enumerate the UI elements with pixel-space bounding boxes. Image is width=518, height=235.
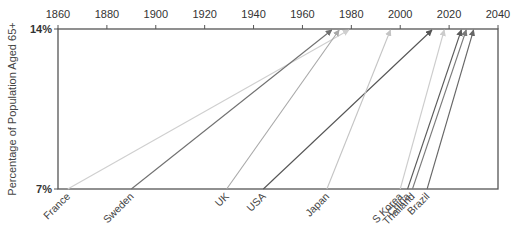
- x-axis-ticks: 1860188019001920194019601980200020202040: [46, 8, 510, 29]
- country-label: USA: [244, 190, 268, 214]
- x-tick-label: 1920: [192, 8, 216, 20]
- series-line-france: [68, 30, 349, 189]
- x-tick-label: 1960: [290, 8, 314, 20]
- country-label: Sweden: [100, 190, 135, 225]
- x-tick-label: 2040: [486, 8, 510, 20]
- country-label: Japan: [303, 190, 332, 219]
- x-tick-label: 1880: [95, 8, 119, 20]
- series-lines: [68, 30, 474, 189]
- series-line-sweden: [131, 30, 331, 189]
- x-tick-label: 2020: [437, 8, 461, 20]
- y-axis-top-label: 14%: [30, 23, 52, 35]
- y-axis-bottom-label: 7%: [36, 183, 52, 195]
- x-tick-label: 1940: [241, 8, 265, 20]
- country-labels: FranceSwedenUKUSAJapanS KoreaChinaThaila…: [41, 190, 432, 227]
- y-axis-title: Percentage of Population Aged 65+: [6, 22, 18, 195]
- series-line-japan: [327, 30, 391, 189]
- plot-frame: [54, 29, 498, 189]
- x-tick-label: 1900: [144, 8, 168, 20]
- aging-speed-chart: 1860188019001920194019601980200020202040…: [0, 0, 518, 235]
- series-line-uk: [227, 30, 339, 189]
- series-line-thailand: [412, 30, 466, 189]
- x-tick-label: 1980: [339, 8, 363, 20]
- x-tick-label: 2000: [388, 8, 412, 20]
- country-label: UK: [212, 190, 231, 209]
- x-tick-label: 1860: [46, 8, 70, 20]
